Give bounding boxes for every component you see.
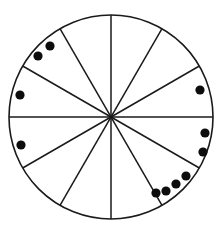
- marker-dot-8: [181, 171, 190, 180]
- marker-dot-7: [198, 147, 207, 156]
- marker-dot-3: [15, 90, 24, 99]
- pie-circle-figure: [0, 0, 224, 232]
- marker-dot-9: [171, 179, 180, 188]
- marker-dot-10: [161, 186, 170, 195]
- marker-dot-1: [45, 41, 54, 50]
- marker-dot-4: [16, 140, 25, 149]
- marker-dot-11: [151, 188, 160, 197]
- pie-chart-svg: [0, 0, 224, 232]
- marker-dot-2: [33, 51, 42, 60]
- marker-dot-5: [195, 85, 204, 94]
- marker-dot-6: [200, 128, 209, 137]
